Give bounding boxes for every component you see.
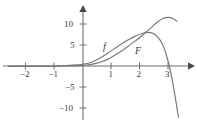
y-axis-arrowhead (79, 5, 86, 12)
y-tick-label--10: −10 (59, 104, 73, 113)
x-tick-label-2: 2 (137, 70, 142, 79)
x-tick-label--1: −1 (49, 70, 59, 79)
graph-figure: −2 −1 1 2 3 10 5 −5 −10 f F (0, 0, 197, 126)
y-tick-label-10: 10 (64, 20, 73, 29)
y-tick-label-5: 5 (70, 41, 75, 50)
x-tick-label-3: 3 (165, 70, 170, 79)
curve-F (9, 17, 177, 66)
curve-label-F: F (135, 46, 141, 56)
x-tick-label--2: −2 (20, 70, 30, 79)
curve-label-f: f (103, 42, 106, 52)
x-axis-arrowhead (188, 62, 195, 70)
plot-svg (0, 0, 197, 126)
y-tick-label--5: −5 (65, 83, 75, 92)
x-tick-label-1: 1 (109, 70, 114, 79)
curve-f (9, 32, 179, 117)
